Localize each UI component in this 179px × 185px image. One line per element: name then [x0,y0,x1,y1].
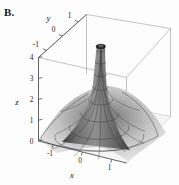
z-axis: 0 1 2 3 4 z [14,53,42,146]
z-tick-label-2: 2 [30,95,34,104]
z-tick-label-3: 3 [30,74,34,83]
z-tick-label-0: 0 [30,137,34,146]
z-tick-label-1: 1 [30,116,34,125]
z-axis-label: z [14,97,19,107]
x-tick-label-neg1: -1 [47,149,53,158]
x-tick-label-0: 0 [78,156,82,165]
z-tick-label-4: 4 [30,53,34,62]
y-tick-label-1: 1 [68,11,72,20]
x-tick-label-1: 1 [108,163,112,172]
figure-panel: B. [0,0,179,185]
x-axis-label: x [69,170,74,180]
y-axis: -1 0 1 y [33,11,87,58]
y-tick-label-0: 0 [52,25,56,34]
surface-plot-3d: 0 1 2 3 4 z -1 0 1 x [0,0,179,185]
y-tick-label-neg1: -1 [33,40,39,49]
y-axis-label: y [46,13,51,23]
